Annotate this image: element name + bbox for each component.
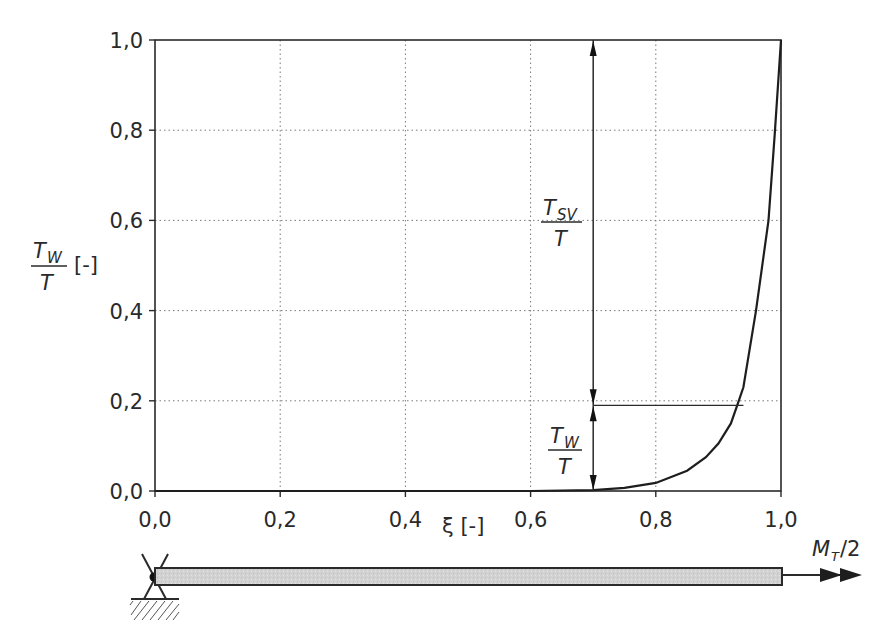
double-arrow-torque-icon (782, 568, 862, 582)
tsv-denominator: T (554, 227, 569, 251)
arrowhead-up-icon (590, 406, 597, 421)
torsion-ratio-chart: 0,00,20,40,60,81,0 0,00,20,40,60,81,0 T … (0, 0, 891, 641)
arrowhead-down-icon (590, 475, 597, 490)
tw-denominator: T (558, 455, 573, 479)
y-tick-label: 0,0 (110, 480, 143, 504)
tsv-ratio-label: T SV T (541, 196, 582, 251)
tw-ratio-label: T W T (548, 424, 582, 479)
x-tick-label: 0,2 (263, 508, 296, 532)
torque-label-subscript: T (831, 549, 840, 564)
x-tick-label: 0,4 (389, 508, 422, 532)
x-tick-label: 0,8 (639, 508, 672, 532)
y-tick-label: 1,0 (110, 29, 143, 53)
plot-frame (155, 40, 781, 491)
y-axis-ticks: 0,00,20,40,60,81,0 (110, 29, 155, 504)
arrowhead-up-icon (590, 41, 597, 56)
fixed-support-hatching (130, 599, 179, 620)
x-axis-label: ξ [-] (442, 514, 484, 538)
y-tick-label: 0,2 (110, 390, 143, 414)
grid-lines (155, 40, 781, 491)
tw-ratio-curve (155, 40, 781, 491)
arrowhead-down-icon (590, 389, 597, 404)
x-tick-label: 0,0 (138, 508, 171, 532)
torque-label-main: M (812, 537, 830, 561)
y-axis-label-subscript: W (47, 249, 63, 267)
y-axis-label-denominator: T (40, 271, 55, 295)
x-tick-label: 0,6 (514, 508, 547, 532)
y-tick-label: 0,4 (110, 300, 143, 324)
y-tick-label: 0,6 (110, 209, 143, 233)
y-tick-label: 0,8 (110, 119, 143, 143)
torque-label: M T /2 (812, 537, 860, 564)
y-axis-unit: [-] (74, 253, 98, 277)
beam-bar (155, 568, 782, 585)
torque-label-rest: /2 (840, 537, 860, 561)
tsv-numerator: T (543, 196, 558, 220)
beam-schematic: M T /2 (130, 537, 862, 620)
x-tick-label: 1,0 (764, 508, 797, 532)
y-axis-label: T W T [-] (31, 239, 98, 295)
tw-numerator: T (550, 424, 565, 448)
dimension-arrows (590, 40, 597, 491)
y-axis-label-numerator: T (33, 239, 48, 263)
